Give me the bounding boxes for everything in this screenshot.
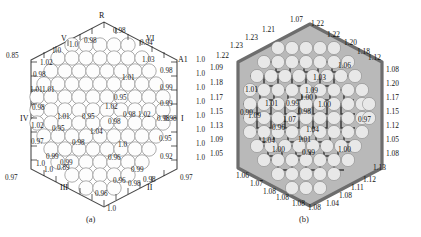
edge-left-value-b: 1.05 (210, 149, 223, 158)
interior-value-b: 1.00 (272, 145, 285, 154)
interior-value-b: 1.01 (245, 85, 258, 94)
panel-b-diagram: 1.23 1.23 1.21 1.07 1.22 1.22 1.20 1.18 … (210, 0, 421, 237)
edge-bottom-value-b: 1.12 (363, 175, 376, 184)
edge-top-right-value: 0.94 (140, 39, 153, 47)
interior-value-b: 1.07 (283, 115, 296, 124)
edge-left-value: 1.02 (31, 122, 44, 130)
interior-value: 1.04 (90, 128, 103, 136)
edge-right-value: 0.99 (160, 84, 173, 92)
interior-value: 1.01 (122, 74, 135, 82)
edge-top-value-b: 1.21 (262, 25, 275, 34)
interior-value-b: 0.96 (272, 123, 285, 132)
edge-left-value-b: 1.15 (210, 107, 223, 116)
right-column-value: 1.0 (196, 98, 205, 106)
edge-right-value: 0.95 (159, 135, 172, 143)
edge-right-value-b: 1.15 (386, 107, 399, 116)
edge-right-value-b: 1.12 (386, 121, 399, 130)
corner-value-bottom-apex: 1.0 (107, 205, 116, 213)
right-column-value: 1.0 (196, 126, 205, 134)
interior-value-b: 0.99 (302, 148, 315, 157)
label-corner-I: I (181, 114, 184, 123)
edge-bottom-value-b: 1.08 (308, 203, 321, 212)
interior-value-b: 1.04 (262, 136, 275, 145)
edge-bottom-value-b: 1.11 (351, 183, 364, 192)
edge-right-value-b: 1.12 (368, 53, 381, 62)
edge-bottom-value-b: 1.08 (276, 193, 289, 202)
edge-right-value: 0.98 (164, 115, 177, 123)
label-corner-II: II (147, 183, 153, 192)
right-column-value: 1.0 (196, 56, 205, 64)
panel-a-diagram: R V VI IV I III II A1 0.85 0.97 0.97 1.0… (0, 0, 210, 237)
panel-a: R V VI IV I III II A1 0.85 0.97 0.97 1.0… (0, 0, 210, 237)
label-axis-A1: A1 (178, 55, 188, 64)
edge-left-value: 0.97 (31, 138, 44, 146)
edge-bottom-right-value: 0.98 (143, 176, 156, 184)
edge-right-value: 0.99 (160, 100, 173, 108)
corner-value-bottom-left: 0.97 (5, 174, 18, 182)
interior-value-b: 0.97 (358, 115, 371, 124)
edge-bottom-value-b: 1.07 (250, 179, 263, 188)
interior-value: 1.01 (57, 113, 70, 121)
caption-panel-a: (a) (86, 214, 95, 224)
edge-right-value-b: 1.17 (386, 93, 399, 102)
interior-value: 0.95 (52, 125, 65, 133)
edge-top-left-value: 1.0 (52, 47, 61, 55)
edge-left-value-b: 1.18 (210, 78, 223, 87)
right-column-value: 1.0 (196, 140, 205, 148)
interior-value-b: 1.09 (248, 111, 261, 120)
edge-top-value-b: 1.07 (290, 15, 303, 24)
interior-value-b: 1.00 (300, 93, 313, 102)
edge-top-right-value: 1.03 (142, 56, 155, 64)
figure-container: R V VI IV I III II A1 0.85 0.97 0.97 1.0… (0, 0, 421, 237)
interior-value: 1.02 (105, 103, 118, 111)
caption-panel-b: (b) (299, 214, 309, 224)
edge-bottom-right-value: 0.99 (131, 166, 144, 174)
interior-value: 0.98 (108, 118, 121, 126)
edge-left-value: 0.98 (32, 104, 45, 112)
edge-bottom-value-b: 1.06 (236, 171, 249, 180)
edge-bottom-value-b: 1.08 (292, 199, 305, 208)
interior-value: 0.95 (114, 94, 127, 102)
edge-top-value-b: 1.20 (344, 38, 357, 47)
edge-right-value-b: 1.05 (386, 135, 399, 144)
interior-value-b: 1.06 (338, 61, 351, 70)
interior-value-b: 1.04 (306, 125, 319, 134)
edge-right-value: 0.92 (160, 153, 173, 161)
edge-top-value-b: 1.23 (245, 33, 258, 42)
corner-value-top-left: 0.85 (6, 52, 19, 60)
interior-value: 1.0 (118, 141, 127, 149)
right-column-value: 1.0 (196, 112, 205, 120)
edge-right-value-b: 1.20 (386, 79, 399, 88)
interior-value: 0.95 (82, 113, 95, 121)
right-column-value: 1.0 (196, 154, 205, 162)
edge-top-left-value: 1.02 (40, 59, 53, 67)
edge-left-value-b: 1.13 (210, 121, 223, 130)
interior-value: 1.02 (138, 111, 151, 119)
edge-left-value-b: 1.22 (216, 51, 229, 60)
interior-value: 0.98 (123, 111, 136, 119)
label-apex-R: R (99, 11, 105, 20)
interior-value: 0.98 (72, 139, 85, 147)
edge-bottom-left-value: 1.0 (44, 166, 53, 174)
edge-bottom-right-value: 0.96 (113, 177, 126, 185)
edge-bottom-value-b: 1.08 (263, 187, 276, 196)
edge-left-value-b: 1.17 (210, 93, 223, 102)
edge-top-value-b: 1.23 (230, 41, 243, 50)
edge-top-right-value: 0.98 (113, 27, 126, 35)
edge-right-value: 0.98 (160, 67, 173, 75)
edge-right-value-b: 1.08 (386, 65, 399, 74)
edge-left-value: 0.98 (33, 71, 46, 79)
edge-left-value-b: 1.09 (210, 135, 223, 144)
edge-top-right-value: 0.98 (84, 37, 97, 45)
edge-right-value-b: 1.08 (386, 149, 399, 158)
label-corner-IV: IV (20, 114, 29, 123)
panel-b: 1.23 1.23 1.21 1.07 1.22 1.22 1.20 1.18 … (210, 0, 421, 237)
edge-bottom-value-b: 1.04 (326, 199, 339, 208)
edge-bottom-value-b: 1.08 (339, 191, 352, 200)
interior-value: 0.96 (108, 154, 121, 162)
interior-value-b: 1.00 (338, 145, 351, 154)
right-column-value: 1.0 (196, 84, 205, 92)
corner-value-bottom-right: 0.97 (180, 174, 193, 182)
interior-value-b: 1.01 (298, 135, 311, 144)
edge-left-value-b: 1.09 (210, 63, 223, 72)
